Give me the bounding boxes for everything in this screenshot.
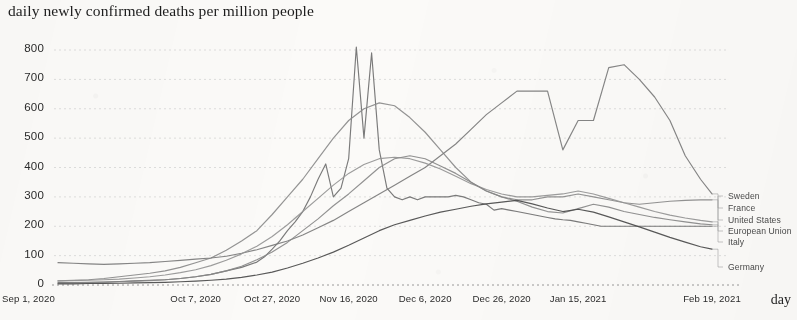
legend-leader-line [712,194,723,220]
x-tick-label: Oct 27, 2020 [244,293,300,304]
y-tick-label: 500 [10,130,44,142]
legend-leader-line [712,200,723,208]
series-lines-group [58,47,712,284]
legend-item-germany[interactable]: Germany [728,262,764,272]
x-tick-label: Nov 16, 2020 [320,293,378,304]
x-axis-title: day [771,292,791,308]
legend-item-italy[interactable]: Italy [728,237,744,247]
series-line-italy [58,156,712,283]
y-tick-label: 300 [10,189,44,201]
legend-item-united-states[interactable]: United States [728,215,781,225]
legend-item-european-union[interactable]: European Union [728,226,792,236]
legend-item-france[interactable]: France [728,203,755,213]
y-tick-label: 100 [10,248,44,260]
legend-leader-lines-group [712,194,723,267]
y-tick-label: 400 [10,160,44,172]
x-tick-label: Oct 7, 2020 [170,293,221,304]
legend-leader-line [712,225,723,242]
y-tick-label: 800 [10,42,44,54]
chart-svg [0,0,797,320]
legend-item-sweden[interactable]: Sweden [728,191,760,201]
x-tick-label: Jan 15, 2021 [550,293,607,304]
series-line-france [58,103,712,281]
chart-plot-area: 0100200300400500600700800 Sep 1, 2020Oct… [0,0,797,320]
gridlines-group [54,50,726,256]
series-line-germany [58,200,712,283]
x-tick-label: Sep 1, 2020 [2,293,55,304]
y-tick-label: 0 [10,277,44,289]
x-tick-label: Dec 26, 2020 [473,293,531,304]
y-tick-label: 600 [10,101,44,113]
x-tick-label: Feb 19, 2021 [683,293,741,304]
y-tick-label: 700 [10,71,44,83]
x-tick-label: Dec 6, 2020 [399,293,452,304]
legend-leader-line [712,249,723,267]
y-tick-label: 200 [10,218,44,230]
